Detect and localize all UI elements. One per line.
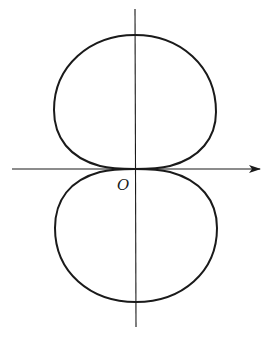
origin-label: O — [117, 176, 129, 194]
polar-curve-figure: O — [0, 0, 264, 340]
